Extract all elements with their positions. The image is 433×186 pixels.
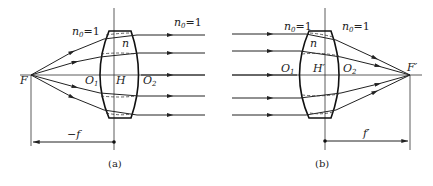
focal-length-label-a: −f bbox=[67, 128, 82, 141]
medium-right-label-a: n0=1 bbox=[174, 16, 202, 30]
medium-left-label-a: n0=1 bbox=[72, 25, 100, 39]
vertex-o2-label-a: O2 bbox=[143, 74, 157, 88]
principal-point-label-a: H bbox=[115, 74, 126, 87]
principal-point-dot-b bbox=[323, 139, 327, 143]
thick-lens-diagram: F n0=1 n0=1 n O1 H O2 −f (a) bbox=[0, 0, 433, 186]
figure-a: F n0=1 n0=1 n O1 H O2 −f (a) bbox=[19, 8, 205, 169]
medium-left-label-b: n0=1 bbox=[284, 20, 312, 34]
lens-index-label-b: n bbox=[310, 37, 317, 50]
principal-point-dot-a bbox=[112, 140, 116, 144]
figure-b: n0=1 n0=1 n O1 H′ O2 F′ f′ (b) bbox=[232, 8, 422, 169]
caption-b: (b) bbox=[315, 158, 329, 169]
caption-a: (a) bbox=[108, 158, 122, 169]
lens-index-label-a: n bbox=[122, 37, 129, 50]
vertex-o1-label-b: O1 bbox=[281, 62, 295, 76]
vertex-o1-label-a: O1 bbox=[85, 74, 99, 88]
focal-point-label-a: F bbox=[19, 74, 28, 87]
vertex-o2-label-b: O2 bbox=[343, 62, 357, 76]
focal-point-label-b: F′ bbox=[406, 61, 418, 74]
principal-point-label-b: H′ bbox=[312, 62, 326, 75]
focal-length-label-b: f′ bbox=[362, 127, 370, 140]
medium-right-label-b: n0=1 bbox=[342, 20, 370, 34]
incident-rays-b bbox=[232, 34, 306, 115]
